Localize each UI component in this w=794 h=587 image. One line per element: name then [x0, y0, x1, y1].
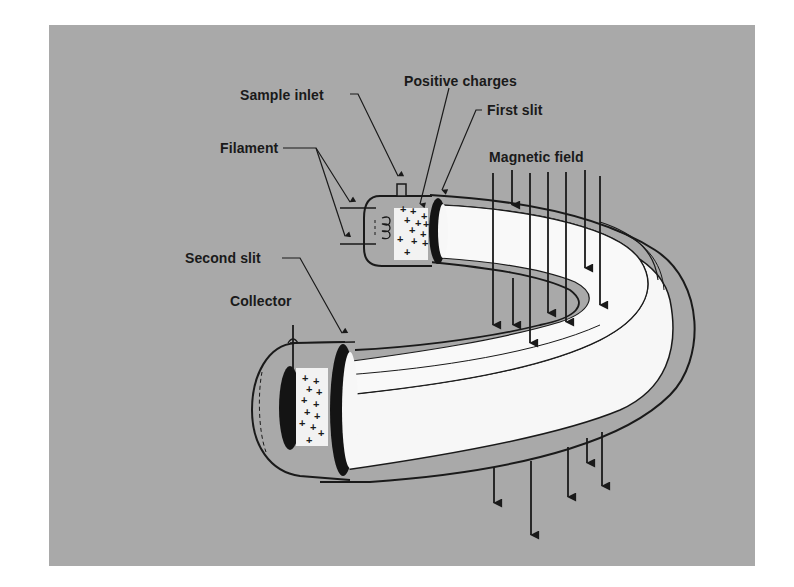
svg-text:+: + — [397, 233, 403, 245]
positive-charges-leader — [420, 88, 449, 204]
svg-text:+: + — [318, 427, 324, 439]
label-filament: Filament — [220, 140, 278, 156]
sample-inlet-leader — [350, 94, 398, 176]
svg-text:+: + — [301, 394, 307, 406]
label-first-slit: First slit — [487, 102, 542, 118]
svg-text:+: + — [404, 246, 410, 258]
label-magnetic-field: Magnetic field — [489, 149, 584, 165]
svg-text:+: + — [411, 235, 417, 247]
svg-text:+: + — [310, 421, 316, 433]
label-second-slit: Second slit — [185, 250, 261, 266]
label-sample-inlet: Sample inlet — [240, 87, 324, 103]
label-collector: Collector — [230, 293, 292, 309]
svg-text:+: + — [313, 398, 319, 410]
magnetic-field-arrows-below — [494, 432, 602, 535]
svg-text:+: + — [316, 386, 322, 398]
sample-inlet-nozzle — [397, 184, 406, 196]
svg-text:+: + — [410, 205, 416, 217]
svg-text:+: + — [299, 417, 305, 429]
svg-text:+: + — [306, 434, 312, 446]
svg-text:+: + — [422, 237, 428, 249]
ion-source-chamber — [340, 184, 448, 266]
label-positive-charges: Positive charges — [404, 73, 517, 89]
filament-leader-bottom — [316, 148, 345, 236]
filament-leader-top — [283, 148, 350, 202]
mass-spectrometer-diagram: ++ ++ ++ ++ ++ ++ ++ ++ ++ ++ ++ ++ — [0, 0, 794, 587]
first-slit-leader — [442, 110, 482, 190]
